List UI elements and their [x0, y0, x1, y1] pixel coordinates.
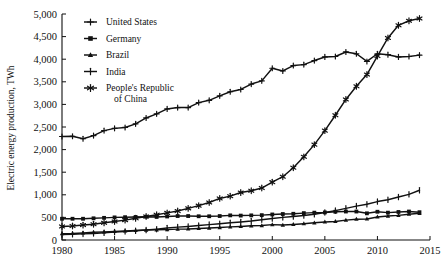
chart-legend: United StatesGermanyBrazilIndiaPeople's … — [84, 17, 174, 104]
data-point-marker — [228, 213, 232, 217]
y-tick-label: 0 — [52, 235, 57, 246]
y-tick-label: 3,000 — [33, 99, 57, 110]
data-point-marker — [102, 216, 106, 220]
data-point-marker — [239, 214, 243, 218]
data-point-marker — [322, 54, 327, 59]
plot-area — [60, 16, 422, 238]
data-point-marker — [312, 58, 317, 63]
data-point-marker — [197, 214, 201, 218]
data-point-marker — [207, 214, 211, 218]
axes — [62, 14, 430, 240]
data-point-marker — [123, 125, 128, 130]
data-point-marker — [385, 52, 390, 57]
y-tick-label: 3,500 — [33, 76, 57, 87]
data-point-marker — [71, 217, 75, 221]
data-point-marker — [343, 49, 348, 54]
data-point-marker — [207, 98, 212, 103]
legend-item-3[interactable]: Brazil — [84, 50, 130, 60]
data-point-marker — [301, 62, 306, 67]
legend-label: United States — [106, 17, 157, 27]
y-axis-tick-labels: 05001,0001,5002,0002,5003,0003,5004,0004… — [33, 9, 66, 246]
y-tick-label: 2,500 — [33, 122, 57, 133]
data-point-marker — [81, 217, 85, 221]
x-tick-label: 1985 — [104, 245, 125, 256]
data-point-marker — [102, 128, 107, 133]
data-point-marker — [154, 111, 159, 116]
data-point-marker — [376, 210, 380, 214]
y-tick-label: 500 — [41, 212, 57, 223]
y-tick-label: 2,000 — [33, 144, 57, 155]
data-point-marker — [249, 82, 254, 87]
y-axis-title-group: Electric energy production, TWh — [6, 65, 16, 190]
legend-item-2[interactable]: Germany — [84, 34, 142, 44]
y-tick-label: 4,000 — [33, 54, 57, 65]
series-5 — [60, 16, 422, 230]
x-tick-label: 1995 — [209, 245, 230, 256]
x-tick-label: 2000 — [262, 245, 283, 256]
y-axis-title: Electric energy production, TWh — [6, 65, 16, 190]
data-point-marker — [175, 105, 180, 110]
data-point-marker — [333, 54, 338, 59]
data-point-marker — [417, 53, 422, 58]
x-tick-label: 2015 — [420, 245, 441, 256]
data-point-marker — [196, 100, 201, 105]
data-point-marker — [407, 54, 412, 59]
legend-item-4[interactable]: India — [84, 67, 126, 77]
data-point-marker — [291, 63, 296, 68]
data-point-marker — [81, 136, 86, 141]
data-point-marker — [365, 211, 369, 215]
legend-label: Brazil — [106, 50, 130, 60]
legend-label-line2: of China — [114, 94, 148, 104]
data-point-marker — [280, 68, 285, 73]
data-point-marker — [249, 213, 253, 217]
data-point-marker — [112, 126, 117, 131]
data-point-marker — [60, 217, 64, 221]
legend-item-5[interactable]: People's Republicof China — [84, 83, 174, 104]
line-chart: Electric energy production, TWh 05001,00… — [0, 0, 443, 274]
data-point-marker — [91, 133, 96, 138]
legend-label: Germany — [106, 34, 142, 44]
x-axis-tick-labels: 19801985199019952000200520102015 — [52, 236, 441, 256]
data-point-marker — [165, 106, 170, 111]
y-tick-label: 4,500 — [33, 31, 57, 42]
data-point-marker — [217, 93, 222, 98]
x-tick-label: 2005 — [314, 245, 335, 256]
legend-item-1[interactable]: United States — [84, 17, 157, 27]
legend-label: People's Republic — [106, 83, 174, 93]
data-point-marker — [186, 214, 190, 218]
data-point-marker — [88, 19, 94, 25]
data-point-marker — [70, 134, 75, 139]
data-point-marker — [218, 214, 222, 218]
data-point-marker — [186, 105, 191, 110]
data-point-marker — [238, 87, 243, 92]
data-point-marker — [396, 54, 401, 59]
data-point-marker — [176, 214, 180, 218]
y-tick-label: 5,000 — [33, 9, 57, 20]
data-point-marker — [60, 134, 65, 139]
data-point-marker — [228, 89, 233, 94]
data-point-marker — [270, 179, 275, 185]
y-tick-label: 1,500 — [33, 167, 57, 178]
chart-container: Electric energy production, TWh 05001,00… — [0, 0, 443, 274]
data-point-marker — [355, 210, 359, 214]
y-tick-label: 1,000 — [33, 189, 57, 200]
data-point-marker — [92, 216, 96, 220]
x-tick-label: 1990 — [157, 245, 178, 256]
x-tick-label: 2010 — [367, 245, 388, 256]
legend-label: India — [106, 67, 126, 77]
data-point-marker — [88, 36, 93, 41]
x-tick-label: 1980 — [52, 245, 73, 256]
